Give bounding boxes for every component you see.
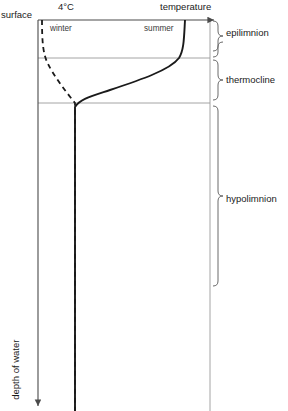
- brace-thermocline: [213, 60, 223, 100]
- label-winter-curve: winter: [50, 25, 72, 33]
- label-summer-curve: summer: [144, 25, 174, 33]
- label-zone-thermocline: thermocline: [226, 75, 275, 85]
- brace-hypolimnion: [213, 106, 223, 286]
- label-zone-epilimnion: epilimnion: [226, 28, 269, 38]
- label-temperature-axis: temperature: [160, 2, 211, 12]
- thermal-stratification-diagram: surface 4°C temperature winter summer ep…: [0, 0, 288, 411]
- label-four-degrees-celsius: 4°C: [58, 2, 74, 12]
- label-zone-hypolimnion: hypolimnion: [226, 194, 277, 204]
- brace-epilimnion-lower: [213, 42, 223, 57]
- summer-temperature-curve: [75, 20, 185, 411]
- label-depth-of-water-axis: depth of water: [11, 320, 21, 400]
- winter-temperature-curve: [42, 20, 75, 411]
- label-surface: surface: [1, 10, 32, 20]
- diagram-canvas: [0, 0, 288, 411]
